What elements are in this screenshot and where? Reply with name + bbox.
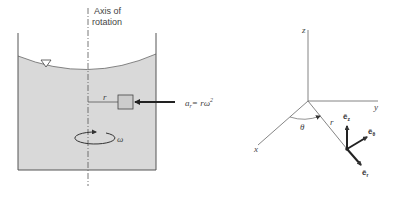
- theta-arc: [290, 116, 320, 119]
- e-z-label: êz: [343, 112, 350, 122]
- r-line: [308, 101, 347, 149]
- axis-label-line1: Axis of: [94, 6, 122, 16]
- e-r-arrow: [347, 149, 361, 165]
- radius-label: r: [103, 92, 107, 102]
- axis-label-line2: rotation: [92, 17, 122, 27]
- acceleration-label: ar= rω2: [185, 97, 213, 109]
- fluid-particle-box: [118, 95, 133, 109]
- cylindrical-coordinates-figure: z y x θ r êz êθ êr: [253, 25, 378, 178]
- x-axis-label: x: [253, 144, 258, 154]
- r-label: r: [330, 117, 334, 127]
- theta-label: θ: [300, 122, 305, 132]
- e-theta-arrow: [347, 137, 367, 149]
- e-theta-label: êθ: [368, 127, 375, 137]
- e-r-label: êr: [362, 168, 368, 178]
- z-axis-label: z: [301, 25, 306, 35]
- omega-label: ω: [117, 134, 123, 144]
- rotating-container-figure: Axis of rotation r ar= rω2 ω: [18, 6, 213, 186]
- diagram-canvas: Axis of rotation r ar= rω2 ω z y x θ r ê…: [0, 0, 400, 198]
- y-axis-label: y: [373, 102, 378, 112]
- liquid-region: [18, 54, 156, 170]
